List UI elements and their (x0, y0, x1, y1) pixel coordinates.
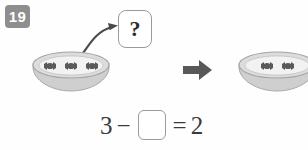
right-bowl (236, 50, 308, 94)
equation-first-term: 3 (100, 113, 113, 138)
answer-input-box[interactable] (138, 110, 166, 140)
equation-equals-sign: = (172, 113, 188, 138)
equation-result: 2 (191, 113, 204, 138)
question-card: ? (118, 10, 152, 48)
worksheet-problem-canvas: 19 ? (0, 0, 308, 150)
equation-minus-operator: − (116, 113, 132, 138)
equation-row: 3 − = 2 (100, 104, 203, 146)
left-bowl (30, 50, 112, 94)
question-mark-icon: ? (119, 11, 151, 47)
right-arrow-icon (183, 58, 213, 82)
problem-number-badge: 19 (5, 5, 30, 28)
